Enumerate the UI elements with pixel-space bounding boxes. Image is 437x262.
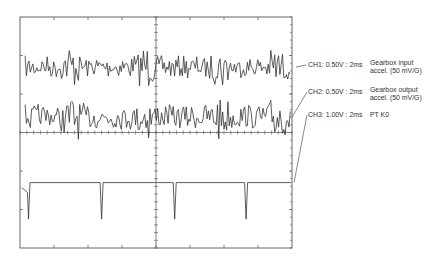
oscilloscope-plot (0, 0, 437, 262)
ch2-label: CH2: 0.50V : 2ms (308, 88, 362, 96)
ch2-description-line2: accel. (50 mV/G) (370, 94, 422, 102)
ch2-trace (25, 100, 290, 139)
ch1-label: CH1: 0.50V : 2ms (308, 61, 362, 69)
ch3-leader-line (294, 115, 307, 183)
ch3-label: CH3: 1.00V : 2ms (308, 111, 362, 119)
ch1-description-line2: accel. (50 mV/G) (370, 67, 422, 75)
ch1-leader-line (296, 65, 306, 67)
ch3-description-line1: PT K0 (370, 111, 389, 119)
graticule (20, 17, 292, 248)
ch2-leader-line (292, 92, 307, 117)
leader-lines (292, 65, 307, 183)
